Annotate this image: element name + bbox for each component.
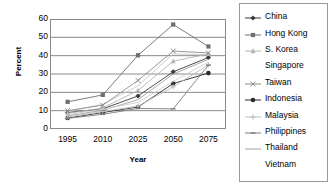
legend-marker-icon: [244, 109, 262, 121]
legend-item-label: Philippines: [265, 126, 306, 136]
data-point-marker: [171, 22, 175, 26]
data-point-marker: [66, 100, 70, 104]
y-tick-label: 0: [26, 124, 48, 133]
y-tick-label: 10: [26, 106, 48, 115]
x-tick-label: 2025: [120, 134, 156, 144]
y-tick-label: 20: [26, 87, 48, 96]
data-point-marker: [250, 16, 255, 21]
x-axis-title: Year: [50, 155, 226, 164]
legend-marker-icon: [244, 141, 262, 153]
data-point-marker: [206, 44, 210, 48]
legend-marker-icon: [244, 158, 262, 170]
data-point-marker: [136, 53, 140, 57]
legend-marker-icon: [244, 76, 262, 88]
legend-item-indonesia[interactable]: Indonesia: [240, 90, 327, 106]
legend-item-label: Taiwan: [265, 77, 291, 87]
x-tick-label: 2050: [155, 134, 191, 144]
y-tick-label: 50: [26, 32, 48, 41]
legend-item-label: Malaysia: [265, 110, 299, 120]
legend-item-label: Singapore: [265, 60, 304, 70]
legend-item-malaysia[interactable]: Malaysia: [240, 106, 327, 122]
plot-canvas: [50, 19, 226, 129]
legend-marker-icon: [244, 27, 262, 39]
legend: ChinaHong KongS. KoreaSingaporeTaiwanInd…: [239, 3, 328, 182]
legend-item-label: S. Korea: [265, 44, 298, 54]
legend-marker-icon: [244, 125, 262, 137]
legend-marker-icon: [244, 10, 262, 22]
legend-item-singapore[interactable]: Singapore: [240, 57, 327, 73]
legend-item-thailand[interactable]: Thailand: [240, 139, 327, 155]
series-singapore: [68, 54, 209, 112]
legend-item-label: China: [265, 11, 287, 21]
data-point-marker: [250, 114, 255, 119]
legend-item-label: Hong Kong: [265, 28, 308, 38]
legend-item-label: Vietnam: [265, 159, 296, 169]
legend-item-vietnam[interactable]: Vietnam: [240, 156, 327, 172]
legend-item-china[interactable]: China: [240, 8, 327, 24]
y-axis-title: Percent: [14, 27, 23, 97]
legend-marker-icon: [244, 92, 262, 104]
legend-marker-icon: [244, 59, 262, 71]
data-point-marker: [206, 71, 211, 76]
x-tick-label: 2075: [190, 134, 226, 144]
data-point-marker: [251, 32, 255, 36]
legend-item-label: Thailand: [265, 142, 298, 152]
legend-marker-icon: [244, 43, 262, 55]
legend-item-philippines[interactable]: Philippines: [240, 123, 327, 139]
data-point-marker: [136, 78, 141, 83]
legend-item-s-korea[interactable]: S. Korea: [240, 41, 327, 57]
y-tick-label: 40: [26, 51, 48, 60]
y-tick-label: 60: [26, 14, 48, 23]
legend-item-taiwan[interactable]: Taiwan: [240, 74, 327, 90]
series-line: [68, 54, 209, 112]
data-point-marker: [101, 93, 105, 97]
y-tick-label: 30: [26, 69, 48, 78]
legend-item-hong-kong[interactable]: Hong Kong: [240, 24, 327, 40]
legend-item-label: Indonesia: [265, 93, 302, 103]
data-point-marker: [251, 98, 256, 103]
x-tick-label: 2010: [85, 134, 121, 144]
line-chart: Percent Year 0102030405060 1995201020252…: [0, 0, 331, 185]
x-tick-label: 1995: [50, 134, 86, 144]
